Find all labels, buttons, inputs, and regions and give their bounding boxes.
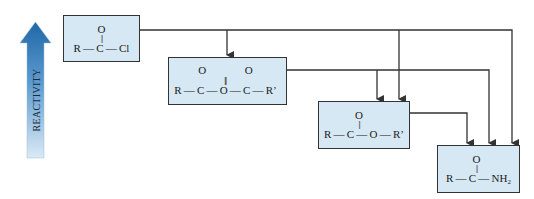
formula-acid-chloride: R — C — Cl xyxy=(64,43,139,54)
formula-anhydride: R — C — O — C — R’ xyxy=(165,85,286,96)
compound-box-amide: O || R — C — NH2 xyxy=(437,145,520,193)
formula-amide-subscript: 2 xyxy=(507,178,511,186)
formula-amide-main: R — C — NH xyxy=(446,172,507,184)
formula-ester: R — C — O — R’ xyxy=(319,129,409,140)
formula-amide: R — C — NH2 xyxy=(438,173,519,188)
reactivity-diagram: REACTIVITY O || R — C — Cl O O || || R —… xyxy=(0,0,534,199)
compound-box-ester: O || R — C — O — R’ xyxy=(318,101,410,149)
reactivity-label: REACTIVITY xyxy=(30,69,41,132)
connector-ester-to-amide xyxy=(409,113,467,143)
compound-box-anhydride: O O || || R — C — O — C — R’ xyxy=(168,57,287,105)
compound-box-acid-chloride: O || R — C — Cl xyxy=(63,15,140,62)
